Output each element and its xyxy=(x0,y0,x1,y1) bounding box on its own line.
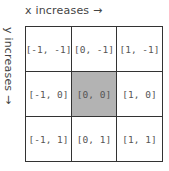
grid-cell: [1, 0] xyxy=(117,72,162,117)
grid-cell: [-1, 1] xyxy=(26,117,72,161)
grid-cell: [-1, 0] xyxy=(26,72,72,117)
grid-cell-center-highlighted: [0, 0] xyxy=(72,72,117,117)
grid-cell: [0, -1] xyxy=(72,27,117,72)
grid-cell: [0, 1] xyxy=(72,117,117,161)
grid-cell: [-1, -1] xyxy=(26,27,72,72)
y-axis-label: y increases → xyxy=(2,27,15,104)
x-axis-label: x increases → xyxy=(25,4,102,17)
grid-cell: [1, 1] xyxy=(117,117,162,161)
grid-cell: [1, -1] xyxy=(117,27,162,72)
coordinate-grid: [-1, -1] [0, -1] [1, -1] [-1, 0] [0, 0] … xyxy=(25,26,163,162)
